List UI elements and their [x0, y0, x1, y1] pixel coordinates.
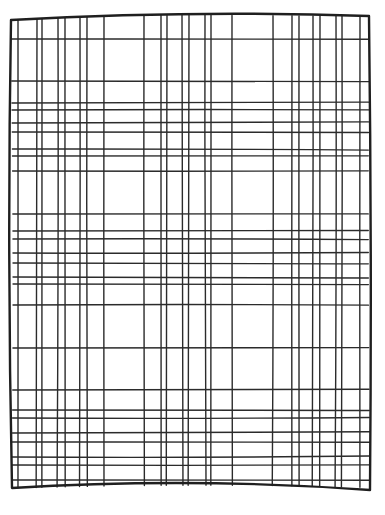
- horizontal-line: [13, 284, 368, 285]
- horizontal-line: [13, 252, 368, 253]
- horizontal-line: [12, 102, 369, 103]
- horizontal-line: [13, 417, 370, 418]
- hand-drawn-grid-canvas: [0, 0, 385, 515]
- horizontal-line: [13, 263, 368, 264]
- horizontal-line: [13, 389, 369, 390]
- vertical-line: [205, 15, 206, 485]
- horizontal-line: [13, 230, 368, 231]
- vertical-line: [182, 15, 183, 485]
- vertical-line: [188, 15, 189, 485]
- vertical-line: [335, 16, 336, 487]
- vertical-line: [80, 17, 81, 486]
- vertical-line: [144, 16, 145, 486]
- vertical-line: [312, 16, 313, 486]
- vertical-grid-lines: [18, 15, 360, 488]
- vertical-line: [341, 16, 342, 487]
- vertical-line: [166, 15, 167, 485]
- vertical-line: [272, 16, 273, 486]
- vertical-line: [87, 17, 88, 487]
- horizontal-line: [12, 432, 369, 433]
- horizontal-line: [13, 277, 368, 278]
- horizontal-line: [12, 456, 369, 457]
- horizontal-line: [12, 149, 368, 150]
- horizontal-line: [13, 305, 368, 306]
- horizontal-line: [12, 81, 369, 82]
- horizontal-line: [13, 239, 368, 240]
